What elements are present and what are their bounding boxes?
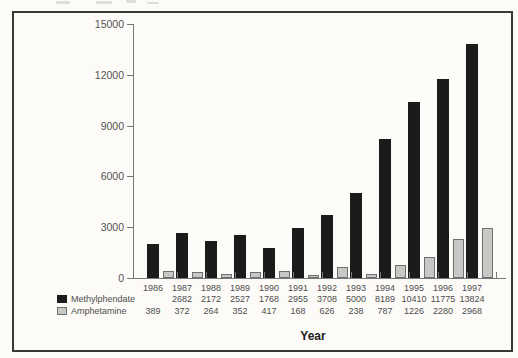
bar-amphetamine-1993 xyxy=(366,274,377,278)
category-tick xyxy=(351,272,352,278)
scan-artifact xyxy=(56,1,70,4)
bar-methylphendate-1996 xyxy=(437,79,449,278)
bar-amphetamine-1988 xyxy=(221,274,232,278)
year-label: 1997 xyxy=(452,283,492,293)
category-tick xyxy=(293,272,294,278)
value-label-amphetamine: 2968 xyxy=(452,306,492,316)
y-tick xyxy=(127,278,133,279)
y-tick xyxy=(127,176,133,177)
y-tick-label: 0 xyxy=(84,272,124,284)
bar-amphetamine-1991 xyxy=(308,275,319,278)
bar-methylphendate-1993 xyxy=(350,193,362,278)
bar-amphetamine-1996 xyxy=(453,239,464,278)
bar-methylphendate-1992 xyxy=(321,215,333,278)
bar-methylphendate-1991 xyxy=(292,228,304,278)
legend-swatch-methylphendate xyxy=(57,295,67,303)
chart-page: 03000600090001200015000 1986389198726823… xyxy=(0,0,518,358)
y-tick-label: 6000 xyxy=(84,170,124,182)
y-tick xyxy=(127,75,133,76)
category-tick xyxy=(322,272,323,278)
category-tick xyxy=(438,272,439,278)
category-tick xyxy=(235,272,236,278)
legend-swatch-amphetamine xyxy=(57,307,67,315)
bar-methylphendate-1986 xyxy=(147,244,159,278)
y-tick-label: 3000 xyxy=(84,221,124,233)
y-tick xyxy=(127,24,133,25)
scan-artifact xyxy=(126,0,136,3)
y-tick-label: 15000 xyxy=(84,18,124,30)
x-axis-title: Year xyxy=(258,329,368,343)
y-tick-label: 12000 xyxy=(84,69,124,81)
y-tick xyxy=(127,227,133,228)
bar-amphetamine-1990 xyxy=(279,271,290,278)
bar-amphetamine-1997 xyxy=(482,228,493,278)
category-tick xyxy=(496,272,497,278)
value-label-methylphendate: 13824 xyxy=(452,294,492,304)
bar-amphetamine-1994 xyxy=(395,265,406,278)
scan-artifact xyxy=(96,1,112,4)
bar-methylphendate-1994 xyxy=(379,139,391,278)
bar-methylphendate-1997 xyxy=(466,44,478,278)
scan-artifact xyxy=(147,2,159,4)
category-tick xyxy=(467,272,468,278)
category-tick xyxy=(380,272,381,278)
legend-label-amphetamine: Amphetamine xyxy=(71,306,127,316)
legend-label-methylphendate: Methylphendate xyxy=(71,294,135,304)
y-tick-label: 9000 xyxy=(84,120,124,132)
bar-methylphendate-1995 xyxy=(408,102,420,278)
category-tick xyxy=(264,272,265,278)
x-axis-line xyxy=(133,278,506,279)
bar-amphetamine-1986 xyxy=(163,271,174,278)
bar-amphetamine-1989 xyxy=(250,272,261,278)
y-axis-line xyxy=(133,24,134,279)
category-tick xyxy=(177,272,178,278)
bar-amphetamine-1987 xyxy=(192,272,203,278)
y-tick xyxy=(127,126,133,127)
category-tick xyxy=(409,272,410,278)
category-tick xyxy=(206,272,207,278)
bar-amphetamine-1995 xyxy=(424,257,435,278)
bar-amphetamine-1992 xyxy=(337,267,348,278)
